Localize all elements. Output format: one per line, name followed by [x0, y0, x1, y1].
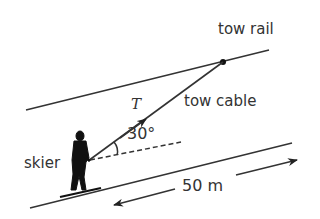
tow-diagram: tow rail tow cable T 30° skier 50 m [0, 0, 320, 219]
tow-cable-line [88, 62, 223, 161]
ground-line [30, 143, 292, 208]
slope-reference-dashed [90, 142, 181, 160]
distance-arrow-left [114, 189, 175, 205]
distance-label: 50 m [182, 178, 223, 194]
distance-arrow-right [236, 160, 297, 175]
tow-rail-label: tow rail [218, 22, 274, 37]
tension-label: T [131, 97, 141, 112]
skier-icon [60, 131, 101, 197]
tow-cable-label: tow cable [184, 94, 256, 109]
angle-label: 30° [127, 126, 155, 142]
skier-label: skier [24, 156, 60, 171]
angle-arc [114, 142, 118, 155]
